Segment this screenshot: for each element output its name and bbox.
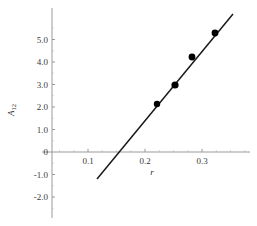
y-tick-label: 1.0 [37,125,49,135]
y-axis-tick-labels: 5.0 4.0 3.0 2.0 1.0 0 -1.0 -2.0 [34,35,49,203]
data-point [212,30,219,37]
y-tick-label: 5.0 [37,35,49,45]
x-tick-label: 0.1 [82,156,93,166]
x-axis-tick-labels: 0.1 0.2 0.3 [82,156,208,166]
data-point [189,54,196,61]
y-axis-title-subscript: 12 [10,104,17,111]
y-axis-title: A12 [6,104,17,117]
x-axis-title: r [150,167,154,177]
x-tick-label: 0.3 [196,156,208,166]
y-tick-label: -1.0 [34,170,49,180]
y-tick-label: 3.0 [37,80,49,90]
svg-text:A12: A12 [6,104,17,117]
y-tick-label: 0 [44,147,49,157]
fit-line [97,14,233,179]
data-points [154,30,219,108]
data-point [154,101,160,107]
data-point [171,81,178,88]
y-tick-label: 4.0 [37,57,49,67]
y-tick-label: -2.0 [34,192,49,202]
x-tick-label: 0.2 [139,156,150,166]
y-tick-label: 2.0 [37,102,49,112]
scatter-plot: 5.0 4.0 3.0 2.0 1.0 0 -1.0 -2.0 0.1 0.2 … [0,0,257,226]
chart-figure: 5.0 4.0 3.0 2.0 1.0 0 -1.0 -2.0 0.1 0.2 … [0,0,257,226]
